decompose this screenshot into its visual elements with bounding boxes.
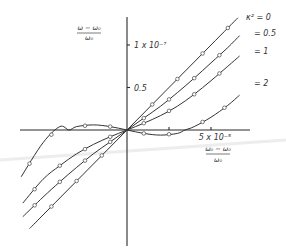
data-point-marker — [192, 76, 196, 80]
y-tick-label: 1 x 10⁻⁷ — [134, 41, 167, 50]
data-point-marker — [33, 203, 37, 207]
curves — [21, 18, 239, 229]
y-label-numerator: ω − ω₀ — [77, 24, 100, 32]
data-point-marker — [100, 154, 104, 158]
data-point-marker — [167, 132, 171, 136]
data-point-marker — [83, 124, 87, 128]
data-point-marker — [58, 180, 62, 184]
data-point-marker — [142, 116, 146, 120]
data-point-marker — [108, 125, 112, 129]
legend-label: κ² = 0 — [246, 13, 271, 22]
x-axis-label: ω₀ − ω₀ ω₀ — [205, 145, 231, 164]
data-point-marker — [108, 140, 112, 144]
data-point-marker — [142, 121, 146, 125]
data-point-marker — [176, 77, 180, 81]
x-label-denominator: ω₀ — [214, 156, 222, 164]
data-point-marker — [201, 52, 205, 56]
data-point-marker — [218, 53, 222, 57]
y-axis-label: ω − ω₀ ω₀ — [77, 24, 101, 42]
data-point-marker — [201, 120, 205, 124]
data-point-marker — [192, 93, 196, 97]
data-point-marker — [226, 26, 230, 30]
x-tick-label: 5 x 10⁻⁵ — [199, 133, 232, 142]
data-point-marker — [167, 109, 171, 113]
data-point-marker — [150, 103, 154, 107]
legend-label: = 1 — [254, 47, 268, 56]
legend-label: = 2 — [254, 79, 268, 88]
legend: κ² = 0= 0.5= 1= 2 — [246, 13, 276, 88]
data-point-marker — [108, 135, 112, 139]
data-point-marker — [50, 205, 54, 209]
data-point-marker — [50, 133, 54, 137]
y-tick-label: 0.5 — [134, 84, 147, 93]
data-point-marker — [218, 72, 222, 76]
data-point-marker — [58, 164, 62, 168]
legend-label: = 0.5 — [254, 29, 276, 38]
data-point-marker — [83, 159, 87, 163]
x-label-numerator: ω₀ − ω₀ — [205, 145, 231, 153]
data-point-marker — [223, 106, 227, 110]
y-label-denominator: ω₀ — [85, 34, 93, 42]
data-point-marker — [167, 98, 171, 102]
data-point-marker — [75, 179, 79, 183]
data-point-marker — [28, 162, 32, 166]
chart: 5 x 10⁻⁵0.51 x 10⁻⁷ κ² = 0= 0.5= 1= 2 ω … — [0, 0, 286, 251]
data-point-marker — [83, 147, 87, 151]
data-point-marker — [33, 187, 37, 191]
data-point-marker — [142, 132, 146, 136]
